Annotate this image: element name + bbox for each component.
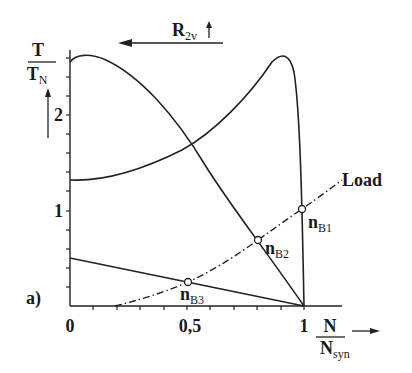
x-axis: 0 0,5 1 — [66, 306, 343, 336]
torque-speed-diagram: R2v T TN 2 1 — [0, 0, 412, 373]
x-tick-0: 0 — [66, 316, 75, 336]
up-arrow-icon — [206, 21, 212, 28]
svg-text:Nsyn: Nsyn — [320, 338, 350, 361]
panel-label: a) — [26, 288, 41, 309]
x-axis-label: N Nsyn — [316, 316, 380, 361]
svg-text:TN: TN — [27, 64, 48, 87]
torque-curve-medium-resistor — [70, 55, 304, 306]
r2v-parameter-arrow: R2v — [118, 20, 223, 47]
y-axis: 2 1 — [54, 50, 70, 306]
up-arrow-icon — [45, 88, 51, 97]
svg-text:N: N — [324, 316, 337, 336]
y-tick-1: 1 — [54, 201, 63, 221]
nb2-label: nB2 — [265, 238, 289, 261]
operating-point-nb1 — [299, 206, 306, 213]
y-axis-label: T TN — [27, 40, 56, 138]
torque-curve-no-resistor — [70, 56, 304, 306]
svg-text:T: T — [32, 40, 44, 60]
nb3-label: nB3 — [180, 284, 204, 307]
operating-point-nb2 — [255, 237, 262, 244]
x-tick-1: 1 — [300, 316, 309, 336]
x-tick-0-5: 0,5 — [179, 316, 202, 336]
right-arrow-icon — [370, 328, 380, 334]
r2v-label: R2v — [172, 20, 197, 43]
load-label: Load — [342, 170, 382, 190]
y-tick-2: 2 — [54, 105, 63, 125]
nb1-label: nB1 — [308, 212, 332, 235]
